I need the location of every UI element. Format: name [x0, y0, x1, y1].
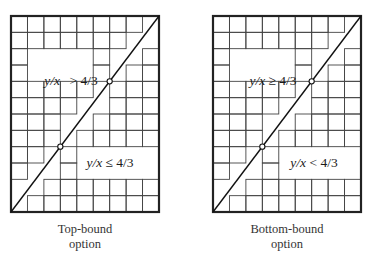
grid-cell-upper [77, 32, 93, 48]
grid-cell-upper [262, 16, 278, 32]
marked-point-icon [260, 144, 265, 149]
grid-cell-upper [93, 16, 109, 32]
grid-cell-upper [27, 98, 43, 114]
grid-cell-upper [44, 32, 60, 48]
grid-cell-upper [11, 114, 27, 130]
grid-cell-lower [143, 179, 159, 195]
grid-cell-upper [11, 49, 27, 65]
grid-cell-upper [27, 16, 43, 32]
grid-cell-upper [11, 16, 27, 32]
grid-cell-lower [262, 163, 278, 179]
grid-cell-lower [27, 196, 43, 212]
grid-cell-upper [11, 98, 27, 114]
label-operator: ≥ [269, 73, 276, 88]
grid-cell-lower [345, 196, 361, 212]
grid-cell-lower [312, 130, 328, 146]
upper-region-label: y/x ≥ 4/3 [249, 73, 296, 89]
grid-diagram-bottom-bound [213, 16, 361, 212]
marked-point-icon [58, 144, 63, 149]
label-variable: y/x [44, 73, 60, 88]
grid-cell-lower [60, 196, 76, 212]
grid-cell-upper [11, 65, 27, 81]
label-value: 4/3 [80, 73, 97, 88]
grid-cell-upper [11, 130, 27, 146]
grid-cell-upper [11, 81, 27, 97]
lower-region-label: y/x ≤ 4/3 [86, 155, 133, 171]
grid-cell-lower [229, 196, 245, 212]
grid-cell-lower [143, 65, 159, 81]
grid-cell-lower [93, 196, 109, 212]
grid-cell-lower [110, 130, 126, 146]
grid-cell-upper [279, 32, 295, 48]
grid-cell-lower [77, 196, 93, 212]
grid-cell-upper [213, 114, 229, 130]
grid-cell-lower [126, 196, 142, 212]
grid-cell-upper [60, 16, 76, 32]
grid-cell-lower [345, 81, 361, 97]
grid-cell-lower [345, 65, 361, 81]
grid-cell-lower [295, 130, 311, 146]
grid-cell-lower [328, 98, 344, 114]
grid-cell-lower [110, 179, 126, 195]
grid-cell-lower [110, 98, 126, 114]
grid-cell-lower [345, 130, 361, 146]
label-variable: y/x [290, 155, 306, 170]
label-variable: y/x [249, 73, 265, 88]
grid-cell-lower [345, 179, 361, 195]
grid-cell-upper [246, 98, 262, 114]
grid-cell-upper [213, 16, 229, 32]
grid-cell-lower [126, 65, 142, 81]
grid-cell-upper [11, 163, 27, 179]
grid-cell-upper [213, 81, 229, 97]
grid-cell-lower [279, 130, 295, 146]
grid-cell-upper [60, 32, 76, 48]
grid-cell-upper [328, 16, 344, 32]
grid-cell-upper [229, 130, 245, 146]
grid-cell-lower [328, 114, 344, 130]
grid-cell-upper [229, 16, 245, 32]
grid-cell-upper [312, 16, 328, 32]
label-operator: < [309, 155, 317, 170]
label-operator: > [69, 73, 77, 88]
grid-cell-lower [143, 114, 159, 130]
grid-diagram-top-bound [11, 16, 159, 212]
grid-cell-upper [27, 81, 43, 97]
grid-cell-upper [93, 49, 109, 65]
grid-cell-upper [295, 16, 311, 32]
grid-cell-lower [143, 196, 159, 212]
grid-cell-lower [143, 98, 159, 114]
grid-cell-upper [229, 114, 245, 130]
grid-cell-lower [110, 196, 126, 212]
grid-cell-upper [229, 98, 245, 114]
grid-cell-lower [262, 196, 278, 212]
grid-cell-upper [27, 147, 43, 163]
grid-cell-upper [213, 65, 229, 81]
grid-cell-lower [328, 65, 344, 81]
grid-cell-upper [229, 147, 245, 163]
grid-cell-lower [328, 179, 344, 195]
grid-cell-upper [246, 114, 262, 130]
label-variable: y/x [86, 155, 102, 170]
grid-cell-lower [126, 81, 142, 97]
caption-line-1: Bottom-bound [212, 222, 362, 237]
grid-cell-upper [213, 147, 229, 163]
grid-cell-lower [279, 179, 295, 195]
grid-cell-upper [60, 98, 76, 114]
grid-cell-upper [44, 114, 60, 130]
grid-cell-lower [328, 196, 344, 212]
grid-cell-upper [262, 98, 278, 114]
grid-cell-upper [110, 32, 126, 48]
grid-cell-upper [110, 16, 126, 32]
caption-top-bound: Top-bound option [10, 222, 160, 252]
grid-cell-lower [279, 196, 295, 212]
grid-cell-lower [345, 49, 361, 65]
lower-region-label: y/x < 4/3 [290, 155, 337, 171]
grid-cell-upper [246, 32, 262, 48]
grid-cell-upper [213, 32, 229, 48]
grid-cell-lower [246, 196, 262, 212]
grid-cell-lower [126, 179, 142, 195]
grid-cell-lower [312, 196, 328, 212]
grid-cell-lower [60, 147, 76, 163]
grid-cell-lower [60, 163, 76, 179]
panel-bottom-bound: y/x ≥ 4/3 y/x < 4/3 [213, 16, 361, 212]
